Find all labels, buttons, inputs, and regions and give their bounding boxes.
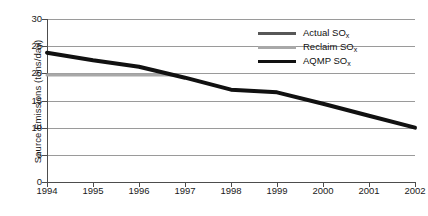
legend-label-subscript: x [354,46,358,53]
x-axis-tick-labels: 199419951996199719981999200020012002 [0,186,428,200]
y-axis-tick-label: 30 [24,14,42,24]
legend-label: Reclaim SOx [303,42,357,52]
legend-swatch [258,32,296,35]
legend-swatch [258,46,296,49]
y-axis-tick-label: 10 [24,123,42,133]
legend-label-subscript: x [347,60,351,67]
y-axis-tick-labels: 051015202530 [22,0,42,216]
y-axis-tick-label: 25 [24,41,42,51]
x-axis-tick-label: 1995 [82,186,103,196]
x-axis-tick-label: 1997 [174,186,195,196]
x-axis-tick-label: 1994 [36,186,57,196]
legend-entry: Reclaim SOx [258,40,418,54]
x-axis-tick-label: 2002 [404,186,425,196]
legend-label: AQMP SOx [303,56,351,66]
line-chart: Source Emissions (tons/day) 051015202530… [0,0,428,216]
legend-entry: AQMP SOx [258,54,418,68]
x-axis-tick-label: 1996 [128,186,149,196]
x-axis-tick-label: 2001 [358,186,379,196]
x-axis-tick-label: 1998 [220,186,241,196]
y-axis-tick-label: 5 [24,150,42,160]
y-axis-tick-label: 20 [24,68,42,78]
chart-legend: Actual SOxReclaim SOxAQMP SOx [258,26,418,68]
legend-label-subscript: x [346,32,350,39]
y-axis-tick-label: 15 [24,96,42,106]
legend-swatch [258,60,296,63]
x-axis-line [47,182,415,183]
x-axis-tick-label: 1999 [266,186,287,196]
x-axis-tick-label: 2000 [312,186,333,196]
legend-label: Actual SOx [303,28,349,38]
legend-entry: Actual SOx [258,26,418,40]
